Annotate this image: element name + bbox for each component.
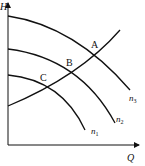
curve-label-n2: n2 bbox=[116, 114, 124, 125]
pump-curve-diagram: H Q A B C n3 n2 n1 bbox=[0, 0, 145, 166]
point-label-a: A bbox=[91, 39, 99, 50]
curve-label-n1: n1 bbox=[91, 126, 99, 137]
point-label-b: B bbox=[66, 57, 73, 68]
pump-curve-n2 bbox=[8, 49, 115, 123]
pump-curve-n1 bbox=[8, 75, 85, 130]
curve-label-n3: n3 bbox=[129, 93, 137, 104]
x-axis-label: Q bbox=[127, 152, 135, 163]
point-label-c: C bbox=[40, 72, 47, 83]
y-axis-label: H bbox=[0, 1, 8, 12]
